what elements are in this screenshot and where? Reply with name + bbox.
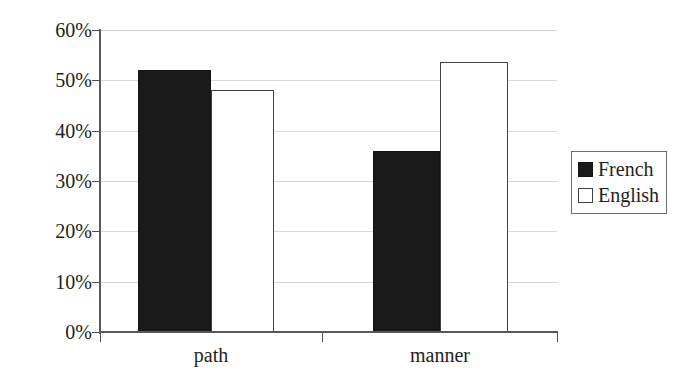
y-tick-10 (92, 282, 99, 283)
y-tick-30 (92, 181, 99, 182)
y-tick-0 (92, 332, 99, 333)
y-axis-label-20: 20% (6, 221, 92, 241)
y-tick-40 (92, 131, 99, 132)
legend-item-french: French (578, 156, 659, 182)
bar-manner-english (440, 62, 508, 332)
y-axis-labels: 60% 50% 40% 30% 20% 10% 0% (0, 0, 92, 388)
legend-label-french: French (598, 159, 654, 179)
legend: French English (571, 151, 667, 214)
x-tick-left (100, 333, 101, 342)
y-axis-label-10: 10% (6, 272, 92, 292)
y-axis-label-60: 60% (6, 20, 92, 40)
x-tick-right (557, 333, 558, 342)
legend-swatch-filled-square-icon (578, 162, 593, 177)
x-axis-label-manner: manner (410, 345, 470, 365)
bar-path-french (138, 70, 211, 332)
y-tick-60 (92, 30, 99, 31)
y-axis-label-0: 0% (6, 322, 92, 342)
y-axis-line (99, 29, 101, 334)
bar-path-english (211, 90, 274, 332)
bar-chart: 60% 50% 40% 30% 20% 10% 0% path manner F… (0, 0, 700, 388)
y-axis-label-40: 40% (6, 121, 92, 141)
legend-swatch-open-square-icon (578, 188, 593, 203)
legend-label-english: English (598, 185, 659, 205)
legend-item-english: English (578, 182, 659, 208)
y-axis-label-50: 50% (6, 70, 92, 90)
gridline-60 (100, 30, 557, 31)
y-tick-20 (92, 231, 99, 232)
plot-area (100, 30, 557, 332)
x-axis-line (99, 331, 558, 333)
x-axis-label-path: path (194, 345, 228, 365)
y-axis-label-30: 30% (6, 171, 92, 191)
y-tick-50 (92, 80, 99, 81)
bar-manner-french (373, 151, 440, 332)
x-tick-middle (322, 333, 323, 342)
